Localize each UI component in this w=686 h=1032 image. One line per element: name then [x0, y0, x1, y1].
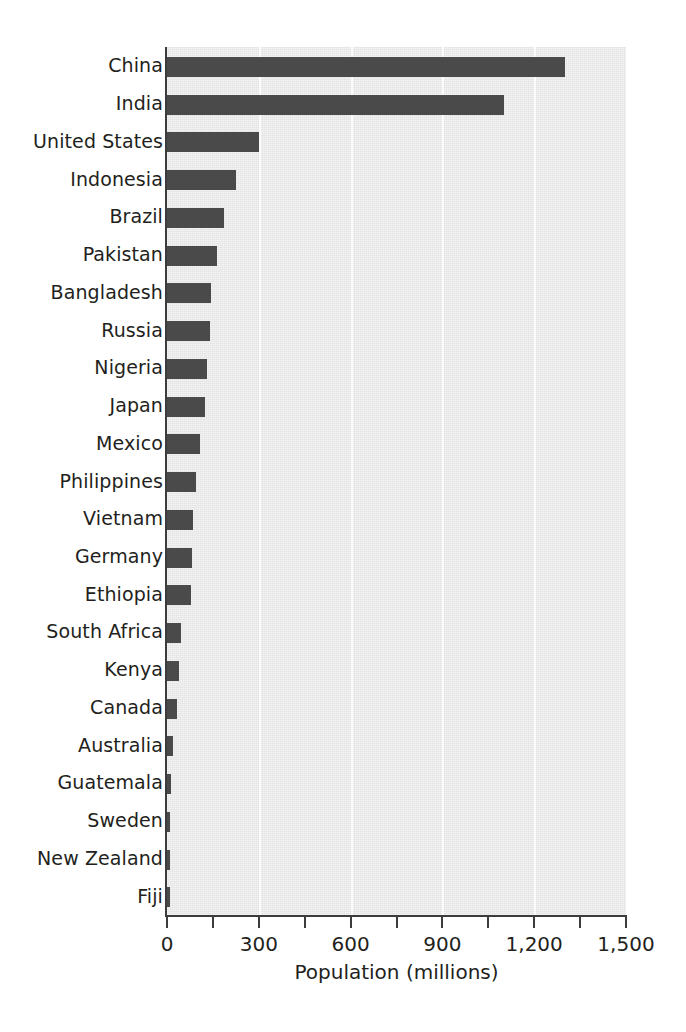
x-tick-major [258, 916, 260, 928]
bar [167, 359, 207, 379]
bar [167, 623, 181, 643]
bar [167, 95, 504, 115]
x-tick-major [533, 916, 535, 928]
bar [167, 661, 179, 681]
bar-row [0, 651, 686, 691]
x-tick-minor [396, 916, 398, 928]
bar [167, 887, 170, 907]
bar-row [0, 387, 686, 427]
bar-row [0, 236, 686, 276]
bar-row [0, 575, 686, 615]
bar [167, 774, 171, 794]
bar [167, 434, 200, 454]
bar-row [0, 726, 686, 766]
x-tick-major [625, 916, 627, 928]
bar-row [0, 47, 686, 87]
bar-row [0, 311, 686, 351]
x-tick-minor [487, 916, 489, 928]
bar-row [0, 877, 686, 917]
x-axis-title: Population (millions) [167, 960, 626, 984]
x-tick-label: 1,200 [506, 933, 563, 955]
bar-row [0, 689, 686, 729]
bar [167, 397, 205, 417]
bar [167, 170, 236, 190]
bar-row [0, 122, 686, 162]
bar-row [0, 538, 686, 578]
bar [167, 246, 217, 266]
bar-row [0, 840, 686, 880]
bar [167, 208, 224, 228]
bar-row [0, 764, 686, 804]
bar-row [0, 802, 686, 842]
bar-row [0, 160, 686, 200]
bar-chart-figure: ChinaIndiaUnited StatesIndonesiaBrazilPa… [0, 0, 686, 1032]
bar [167, 283, 211, 303]
bar-row [0, 424, 686, 464]
x-tick-major [166, 916, 168, 928]
bar [167, 57, 565, 77]
bar-row [0, 349, 686, 389]
x-tick-minor [579, 916, 581, 928]
x-tick-label: 0 [161, 933, 174, 955]
bar [167, 548, 192, 568]
bar-row [0, 500, 686, 540]
x-tick-minor [304, 916, 306, 928]
bar-row [0, 85, 686, 125]
x-tick-major [441, 916, 443, 928]
bar [167, 736, 173, 756]
x-tick-label: 600 [332, 933, 370, 955]
bar [167, 321, 210, 341]
x-tick-label: 300 [240, 933, 278, 955]
bar-row [0, 198, 686, 238]
x-tick-major [350, 916, 352, 928]
bar [167, 132, 259, 152]
bar-row [0, 613, 686, 653]
bar [167, 699, 177, 719]
bar [167, 850, 170, 870]
x-tick-minor [212, 916, 214, 928]
bar-row [0, 273, 686, 313]
bar [167, 812, 170, 832]
bar [167, 472, 196, 492]
x-tick-label: 900 [423, 933, 461, 955]
x-tick-label: 1,500 [597, 933, 654, 955]
bar [167, 510, 193, 530]
bar-row [0, 462, 686, 502]
bar [167, 585, 191, 605]
